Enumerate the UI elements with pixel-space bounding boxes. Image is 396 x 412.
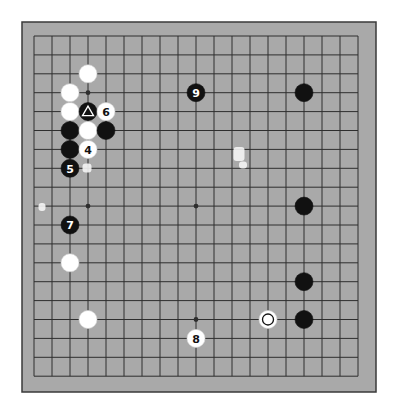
white-stone[interactable]: 6 (97, 103, 115, 121)
white-stone[interactable] (79, 65, 97, 83)
move-number: 9 (192, 87, 200, 100)
black-stone[interactable] (61, 122, 79, 140)
black-stone[interactable] (97, 122, 115, 140)
black-stone[interactable] (295, 84, 313, 102)
star-point (86, 90, 91, 95)
white-stone[interactable] (79, 122, 97, 140)
black-stone[interactable] (79, 103, 97, 121)
white-stone[interactable] (61, 254, 79, 272)
smudge-mark (83, 164, 92, 173)
move-number: 6 (102, 106, 110, 119)
white-stone[interactable] (79, 311, 97, 329)
move-number: 4 (84, 144, 92, 157)
black-stone[interactable]: 5 (61, 159, 79, 177)
move-number: 5 (66, 163, 74, 176)
smudge-mark (234, 147, 245, 161)
white-stone[interactable] (61, 84, 79, 102)
black-stone[interactable] (295, 273, 313, 291)
white-stone[interactable] (259, 311, 277, 329)
move-number: 7 (66, 219, 74, 232)
star-point (194, 204, 199, 209)
star-point (194, 317, 199, 322)
white-stone[interactable] (61, 103, 79, 121)
smudge-mark (39, 203, 46, 211)
black-stone[interactable] (295, 197, 313, 215)
black-stone[interactable] (61, 140, 79, 158)
star-point (86, 204, 91, 209)
black-stone[interactable]: 7 (61, 216, 79, 234)
move-number: 8 (192, 333, 200, 346)
go-board[interactable]: 645978 (0, 0, 396, 412)
white-stone[interactable]: 4 (79, 140, 97, 158)
smudge-mark (239, 162, 247, 169)
black-stone[interactable]: 9 (187, 84, 205, 102)
white-stone[interactable]: 8 (187, 329, 205, 347)
black-stone[interactable] (295, 311, 313, 329)
